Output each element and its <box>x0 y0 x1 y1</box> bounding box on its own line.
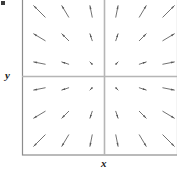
plot-frame-rect <box>23 0 178 155</box>
plot-frame <box>23 0 178 155</box>
vector-field-plot <box>0 0 177 172</box>
corner-artifact-mark <box>1 1 5 5</box>
x-axis-label: x <box>101 158 107 169</box>
vector-field-figure: y x <box>0 0 177 172</box>
y-axis-label: y <box>5 70 10 81</box>
